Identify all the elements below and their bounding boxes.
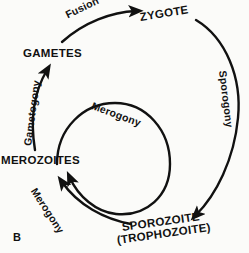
diagram-canvas — [0, 0, 249, 253]
panel-label: B — [13, 232, 21, 243]
stage-label-gametes: GAMETES — [23, 48, 82, 60]
life-cycle-figure: ZYGOTE GAMETES MEROZOITES SPOROZOITE (TR… — [0, 0, 249, 253]
edge-merogony-lower-arc — [62, 182, 131, 224]
stage-label-merozoites: MEROZOITES — [1, 155, 80, 167]
